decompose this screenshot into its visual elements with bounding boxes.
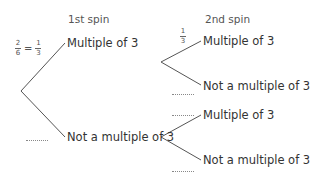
prob-second-upper-top: 1 3 [180, 28, 186, 45]
fraction-simplified: 1 3 [35, 40, 41, 57]
label-first-top: Multiple of 3 [67, 38, 138, 50]
blank-first-bottom[interactable] [26, 140, 48, 141]
label-second-upper-bottom: Not a multiple of 3 [203, 81, 310, 93]
branch-second-upper-bottom [161, 62, 201, 85]
header-first-spin: 1st spin [68, 14, 109, 25]
equals-sign: = [24, 43, 32, 54]
label-second-lower-top: Multiple of 3 [203, 110, 274, 122]
prob-first-top: 2 6 = 1 3 [15, 40, 41, 57]
fraction-given: 2 6 [15, 40, 21, 57]
header-second-spin: 2nd spin [205, 14, 250, 25]
blank-second-upper-bottom[interactable] [172, 94, 194, 95]
blank-second-lower-top[interactable] [172, 115, 194, 116]
branch-first-bottom [21, 91, 65, 137]
label-second-lower-bottom: Not a multiple of 3 [203, 155, 310, 167]
label-second-upper-top: Multiple of 3 [203, 36, 274, 48]
label-first-bottom: Not a multiple of 3 [67, 132, 174, 144]
blank-second-lower-bottom[interactable] [172, 171, 194, 172]
